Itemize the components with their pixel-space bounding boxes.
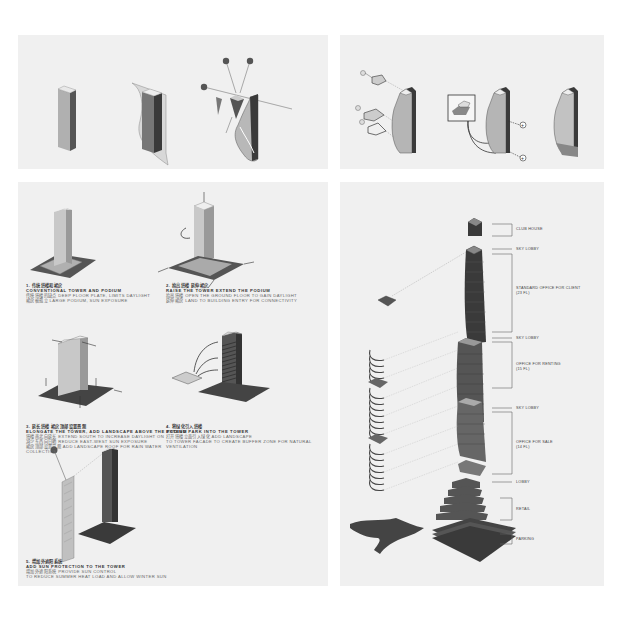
panel-lobby-assembly: + +	[340, 35, 604, 169]
box-tower-icon	[58, 86, 76, 151]
caption-step-1: 1. 传统塔楼和裙房 CONVENTIONAL TOWER AND PODIUM…	[26, 283, 150, 303]
lobby-block-icon	[458, 460, 486, 476]
exploded-floor-plates-icon	[370, 350, 384, 491]
design-steps-diagram	[18, 182, 328, 586]
label-sub: (23 FL)	[516, 291, 580, 296]
svg-text:+: +	[521, 122, 524, 128]
label-lobby: LOBBY	[516, 480, 530, 485]
caption-step-3: 3. 延长塔楼 裙房顶部设置景观 ELONGATE THE TOWER, ADD…	[26, 424, 187, 454]
label-sub: (14 FL)	[516, 445, 553, 450]
final-tower-icon	[554, 87, 578, 157]
sale-office-block-icon	[457, 398, 486, 462]
facade-wrap-tower-icon	[132, 83, 168, 165]
floor-plate-icon	[368, 378, 388, 388]
sun-position-dot	[201, 84, 207, 90]
sun-angle-tower-icon	[201, 58, 292, 161]
caption-desc: 延伸裙房 LAND TO BUILDING ENTRY FOR CONNECTI…	[166, 298, 297, 303]
caption-desc: VENTILATION	[166, 444, 312, 449]
caption-step-5: 5. 增加外遮阳系统 ADD SUN PROTECTION TO THE TOW…	[26, 559, 167, 579]
caption-desc: 裙房被孤立 LARGE PODIUM, SUN EXPOSURE	[26, 298, 150, 303]
label-sale-office: OFFICE FOR SALE (14 FL)	[516, 440, 553, 449]
label-sky-lobby-2: SKY LOBBY	[516, 336, 539, 341]
label-retail: RETAIL	[516, 507, 530, 512]
caption-step-4: 4. 将绿化引入塔楼 EXTEND PARK INTO THE TOWER 打开…	[166, 424, 312, 449]
sun-protection-icon	[51, 447, 137, 563]
assembly-diagram: + +	[340, 35, 604, 169]
panel-design-steps: 1. 传统塔楼和裙房 CONVENTIONAL TOWER AND PODIUM…	[18, 182, 328, 586]
sun-position-dot	[247, 58, 253, 64]
svg-text:+: +	[521, 155, 524, 161]
caption-step-2: 2. 抬高塔楼 延伸裙房 RAISE THE TOWER EXTEND THE …	[166, 283, 297, 303]
tower-assembly-icon: + +	[486, 87, 526, 161]
label-sub: (15 FL)	[516, 367, 561, 372]
label-text: STANDARD OFFICE FOR CLIENT	[516, 286, 580, 291]
sun-position-dot	[223, 58, 229, 64]
massing-diagram	[18, 35, 328, 169]
conventional-tower-icon	[30, 208, 96, 278]
label-text: OFFICE FOR RENTING	[516, 362, 561, 367]
park-into-tower-icon	[172, 332, 270, 402]
label-club-house: CLUB HOUSE	[516, 227, 543, 232]
floor-plate-icon	[378, 296, 396, 306]
caption-desc: TO REDUCE SUMMER HEAT LOAD AND ALLOW WIN…	[26, 574, 167, 579]
elongated-tower-icon	[38, 336, 122, 408]
label-renting-office: OFFICE FOR RENTING (15 FL)	[516, 362, 561, 371]
label-sky-lobby-1: SKY LOBBY	[516, 247, 539, 252]
tower-shell-icon	[392, 87, 416, 153]
panel-exploded-program: CLUB HOUSE SKY LOBBY STANDARD OFFICE FOR…	[340, 182, 604, 586]
label-client-office: STANDARD OFFICE FOR CLIENT (23 FL)	[516, 286, 580, 295]
retail-block-icon	[436, 478, 488, 520]
caption-desc: COLLECTION	[26, 449, 187, 454]
label-parking: PARKING	[516, 537, 534, 542]
client-office-block-icon	[465, 246, 486, 344]
exploded-program-diagram	[340, 182, 604, 586]
site-ground-icon	[350, 518, 424, 554]
floor-plate-icon	[368, 434, 388, 444]
parking-block-icon	[432, 518, 516, 562]
club-house-block-icon	[468, 218, 482, 236]
panel-massing-sequence	[18, 35, 328, 169]
label-brackets	[492, 224, 512, 544]
raised-tower-icon	[158, 192, 254, 288]
label-sky-lobby-3: SKY LOBBY	[516, 406, 539, 411]
label-text: OFFICE FOR SALE	[516, 440, 553, 445]
